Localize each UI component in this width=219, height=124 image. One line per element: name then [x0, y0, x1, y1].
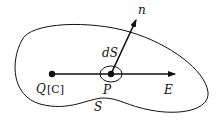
charge-unit-label: [C]: [47, 83, 64, 96]
point-label: P: [102, 83, 112, 97]
gauss-surface-diagram: n dS Q [C] P E S: [0, 0, 219, 124]
closed-surface-s: [15, 24, 208, 112]
charge-q-dot: [49, 71, 55, 77]
charge-label: Q: [36, 82, 46, 96]
surface-label: S: [94, 100, 102, 114]
area-element-label: dS: [102, 46, 118, 60]
field-label: E: [163, 83, 173, 97]
normal-label: n: [138, 3, 146, 17]
